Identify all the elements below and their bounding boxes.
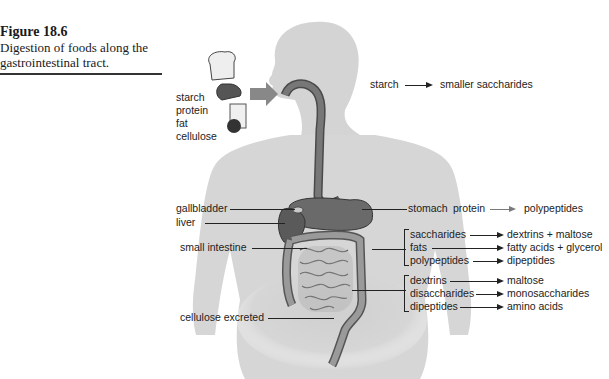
head-silhouette: [269, 22, 360, 140]
label-gallbladder: gallbladder: [176, 202, 227, 214]
group2-bracket: [404, 275, 409, 312]
mouth-reaction-to: smaller saccharides: [440, 78, 533, 90]
burger-icon: [217, 84, 241, 100]
stomach-leader-line: [362, 209, 407, 210]
group2-arrow-1: [476, 294, 502, 295]
group1-reaction-1-to: fatty acids + glycerol: [507, 241, 602, 253]
stomach-reaction-from: protein: [453, 202, 485, 214]
group1-arrow-2: [473, 261, 502, 262]
food-starch: starch: [176, 91, 205, 103]
food-protein: protein: [176, 104, 208, 116]
group1-bracket: [404, 229, 409, 266]
group1-arrow-1: [432, 248, 502, 249]
group1-reaction-0-to: dextrins + maltose: [507, 228, 593, 240]
label-cellulose-excreted: cellulose excreted: [180, 311, 264, 323]
cellulose-leader-line: [268, 318, 334, 319]
food-fat: fat: [176, 117, 188, 129]
label-liver: liver: [176, 216, 195, 228]
group1-reaction-1-from: fats: [410, 241, 427, 253]
group1-arrow-0: [470, 235, 502, 236]
group1-reaction-0-from: saccharides: [410, 228, 466, 240]
group2-reaction-0-to: maltose: [507, 274, 544, 286]
apple-icon: [227, 119, 241, 133]
label-stomach: stomach: [408, 202, 448, 214]
food-cellulose: cellulose: [176, 130, 217, 142]
gallbladder-leader-line: [230, 209, 295, 210]
stomach-arrow: [490, 209, 514, 210]
stomach-reaction-to: polypeptides: [524, 202, 583, 214]
group2-reaction-1-to: monosaccharides: [507, 287, 589, 299]
group2-reaction-0-from: dextrins: [410, 274, 447, 286]
group2-reaction-2-from: dipeptides: [410, 300, 458, 312]
small-intestine-leader-line: [252, 248, 307, 249]
group1-leader-line: [372, 249, 406, 250]
group2-arrow-0: [450, 281, 502, 282]
food-illustration: [209, 52, 278, 133]
group1-reaction-2-to: dipeptides: [507, 254, 555, 266]
gallbladder: [293, 207, 303, 213]
group1-reaction-2-from: polypeptides: [410, 254, 469, 266]
liver-leader-line: [205, 223, 285, 224]
label-small-intestine: small intestine: [180, 241, 247, 253]
group2-leader-line: [352, 290, 406, 291]
mouth-reaction-from: starch: [370, 78, 399, 90]
body-illustration: [0, 0, 609, 379]
group2-reaction-2-to: amino acids: [507, 300, 563, 312]
bread-icon: [209, 52, 236, 80]
group2-reaction-1-from: disaccharides: [410, 287, 474, 299]
mouth-arrow: [405, 85, 431, 86]
group2-arrow-2: [460, 307, 502, 308]
